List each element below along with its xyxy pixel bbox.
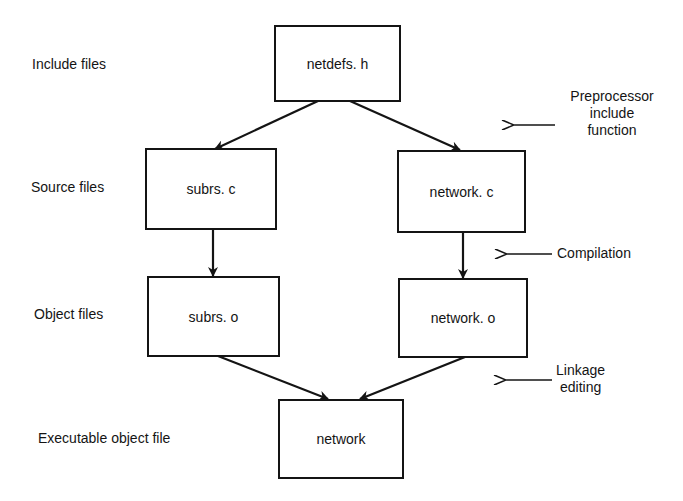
node-network-o: network. o [398,278,528,358]
node-subrs-o: subrs. o [147,276,280,357]
annotation-line: editing [556,379,605,396]
node-network: network [278,399,404,479]
row-label-source-files: Source files [31,179,104,195]
annotation-preprocessor-include-function: Preprocessor include function [552,88,672,139]
annotation-line: include [552,105,672,122]
annotation-line: function [552,122,672,139]
node-netdefs-h: netdefs. h [274,25,401,102]
annotation-line: Linkage [556,362,605,379]
annotation-linkage-editing: Linkage editing [556,362,605,396]
annotation-line: Preprocessor [552,88,672,105]
row-label-include-files: Include files [32,56,106,72]
node-network-c: network. c [397,150,526,233]
annotation-compilation: Compilation [557,245,631,261]
row-label-executable-object-file: Executable object file [38,430,170,446]
node-subrs-c: subrs. c [145,148,277,230]
row-label-object-files: Object files [34,306,103,322]
